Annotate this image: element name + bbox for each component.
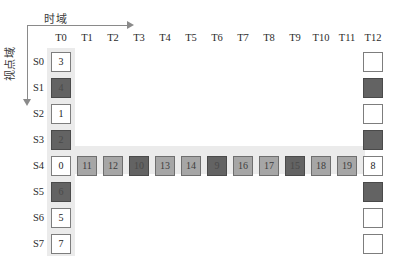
frame-cell-s4-t10[interactable]: 18 [311, 156, 331, 176]
frame-cell-s4-t2[interactable]: 12 [103, 156, 123, 176]
row-label-s6: S6 [24, 212, 44, 223]
viewpoint-axis-label: 视点域 [1, 47, 17, 82]
frame-cell-s2-t0[interactable]: 1 [51, 104, 71, 124]
row-label-s5: S5 [24, 186, 44, 197]
column-header-t10: T10 [308, 32, 334, 43]
frame-cell-s4-t3[interactable]: 10 [129, 156, 149, 176]
frame-cell-s4-t4[interactable]: 13 [155, 156, 175, 176]
frame-cell-s0-t0[interactable]: 3 [51, 52, 71, 72]
frame-cell-s4-t5[interactable]: 14 [181, 156, 201, 176]
frame-cell-s4-t0[interactable]: 0 [51, 156, 71, 176]
column-header-t7: T7 [230, 32, 256, 43]
column-header-t5: T5 [178, 32, 204, 43]
frame-cell-s4-t1[interactable]: 11 [77, 156, 97, 176]
column-header-t1: T1 [74, 32, 100, 43]
row-label-s4: S4 [24, 160, 44, 171]
frame-cell-s7-t0[interactable]: 7 [51, 234, 71, 254]
column-header-t2: T2 [100, 32, 126, 43]
frame-cell-s3-t12[interactable] [363, 130, 383, 150]
column-header-t3: T3 [126, 32, 152, 43]
frame-cell-s7-t12[interactable] [363, 234, 383, 254]
viewpoint-axis-arrow-icon [23, 99, 31, 106]
frame-cell-s4-t12[interactable]: 8 [363, 156, 383, 176]
row-label-s0: S0 [24, 56, 44, 67]
frame-cell-s3-t0[interactable]: 2 [51, 130, 71, 150]
column-header-t12: T12 [360, 32, 386, 43]
row-label-s2: S2 [24, 108, 44, 119]
frame-cell-s2-t12[interactable] [363, 104, 383, 124]
column-header-t0: T0 [48, 32, 74, 43]
time-axis-label: 时域 [44, 10, 67, 26]
row-label-s3: S3 [24, 134, 44, 145]
frame-cell-s1-t12[interactable] [363, 78, 383, 98]
frame-cell-s4-t11[interactable]: 19 [337, 156, 357, 176]
column-header-t11: T11 [334, 32, 360, 43]
column-header-t4: T4 [152, 32, 178, 43]
frame-cell-s4-t6[interactable]: 9 [207, 156, 227, 176]
frame-cell-s5-t12[interactable] [363, 182, 383, 202]
column-header-t8: T8 [256, 32, 282, 43]
time-axis-line [27, 25, 129, 26]
frame-cell-s4-t8[interactable]: 17 [259, 156, 279, 176]
column-header-t9: T9 [282, 32, 308, 43]
frame-cell-s1-t0[interactable]: 4 [51, 78, 71, 98]
frame-cell-s4-t7[interactable]: 16 [233, 156, 253, 176]
time-axis-arrow-icon [127, 21, 134, 29]
frame-cell-s4-t9[interactable]: 15 [285, 156, 305, 176]
row-label-s7: S7 [24, 238, 44, 249]
frame-cell-s6-t0[interactable]: 5 [51, 208, 71, 228]
frame-cell-s5-t0[interactable]: 6 [51, 182, 71, 202]
frame-cell-s6-t12[interactable] [363, 208, 383, 228]
diagram-canvas: 时域 视点域 T0T1T2T3T4T5T6T7T8T9T10T11T12 S0S… [0, 0, 402, 265]
column-header-t6: T6 [204, 32, 230, 43]
frame-cell-s0-t12[interactable] [363, 52, 383, 72]
row-label-s1: S1 [24, 82, 44, 93]
